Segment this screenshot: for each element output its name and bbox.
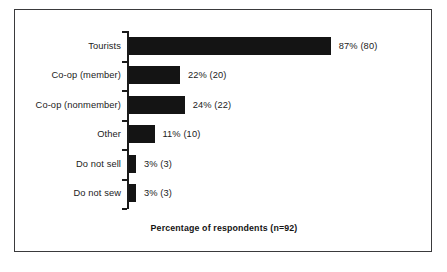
bar-row: Tourists87% (80) bbox=[15, 31, 433, 60]
category-label: Co-op (nonmember) bbox=[36, 100, 121, 110]
bar[interactable] bbox=[129, 125, 155, 143]
bar-row: Co-op (member)22% (20) bbox=[15, 61, 433, 90]
bar[interactable] bbox=[129, 37, 331, 55]
category-label: Do not sew bbox=[73, 188, 121, 198]
bar-value-label: 3% (3) bbox=[144, 159, 172, 169]
chart-frame: Tourists87% (80)Co-op (member)22% (20)Co… bbox=[14, 9, 432, 252]
category-label: Tourists bbox=[88, 41, 121, 51]
bar-value-label: 22% (20) bbox=[188, 70, 227, 80]
axis-caption: Percentage of respondents (n=92) bbox=[15, 223, 433, 233]
bar-row: Do not sew3% (3) bbox=[15, 179, 433, 208]
bar-row: Other11% (10) bbox=[15, 120, 433, 149]
bar[interactable] bbox=[129, 96, 185, 114]
bar-row: Co-op (nonmember)24% (22) bbox=[15, 90, 433, 119]
plot-area: Tourists87% (80)Co-op (member)22% (20)Co… bbox=[15, 10, 433, 253]
bar[interactable] bbox=[129, 66, 180, 84]
bar-value-label: 3% (3) bbox=[144, 188, 172, 198]
category-label: Do not sell bbox=[76, 159, 121, 169]
axis-tick bbox=[122, 208, 127, 210]
bar-value-label: 24% (22) bbox=[193, 100, 232, 110]
bar[interactable] bbox=[129, 184, 136, 202]
bar[interactable] bbox=[129, 155, 136, 173]
category-label: Co-op (member) bbox=[51, 70, 121, 80]
bar-value-label: 87% (80) bbox=[339, 41, 378, 51]
bar-value-label: 11% (10) bbox=[163, 129, 201, 139]
category-label: Other bbox=[97, 129, 121, 139]
bar-row: Do not sell3% (3) bbox=[15, 149, 433, 178]
